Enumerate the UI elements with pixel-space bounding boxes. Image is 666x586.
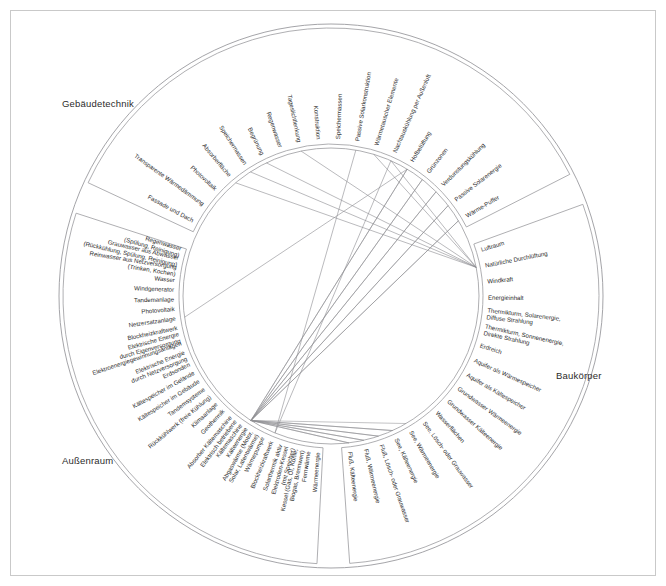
chord-link bbox=[275, 161, 391, 433]
node-label: Tandemanlage bbox=[134, 295, 175, 303]
section-title-baukoerper: Baukörper bbox=[556, 370, 602, 381]
chord-link bbox=[251, 192, 436, 421]
chord-link bbox=[251, 180, 422, 421]
node-label: Energieinhalt bbox=[488, 293, 524, 300]
chord-link bbox=[251, 221, 459, 421]
chord-link bbox=[251, 206, 448, 421]
chord-link bbox=[251, 169, 407, 420]
inner-circle bbox=[183, 148, 479, 444]
section-title-gebaeudetechnik: Gebäudetechnik bbox=[62, 98, 134, 109]
chord-diagram: WärmeenergieFernwärmeKessel (Gas, Öl, Ko… bbox=[0, 0, 666, 586]
figure-page: WärmeenergieFernwärmeKessel (Gas, Öl, Ko… bbox=[0, 0, 666, 586]
diagram-root: WärmeenergieFernwärmeKessel (Gas, Öl, Ko… bbox=[59, 24, 603, 568]
group-band-außenraum bbox=[342, 204, 599, 563]
chord-link bbox=[275, 150, 356, 433]
section-title-aussenraum: Außenraum bbox=[62, 455, 113, 466]
